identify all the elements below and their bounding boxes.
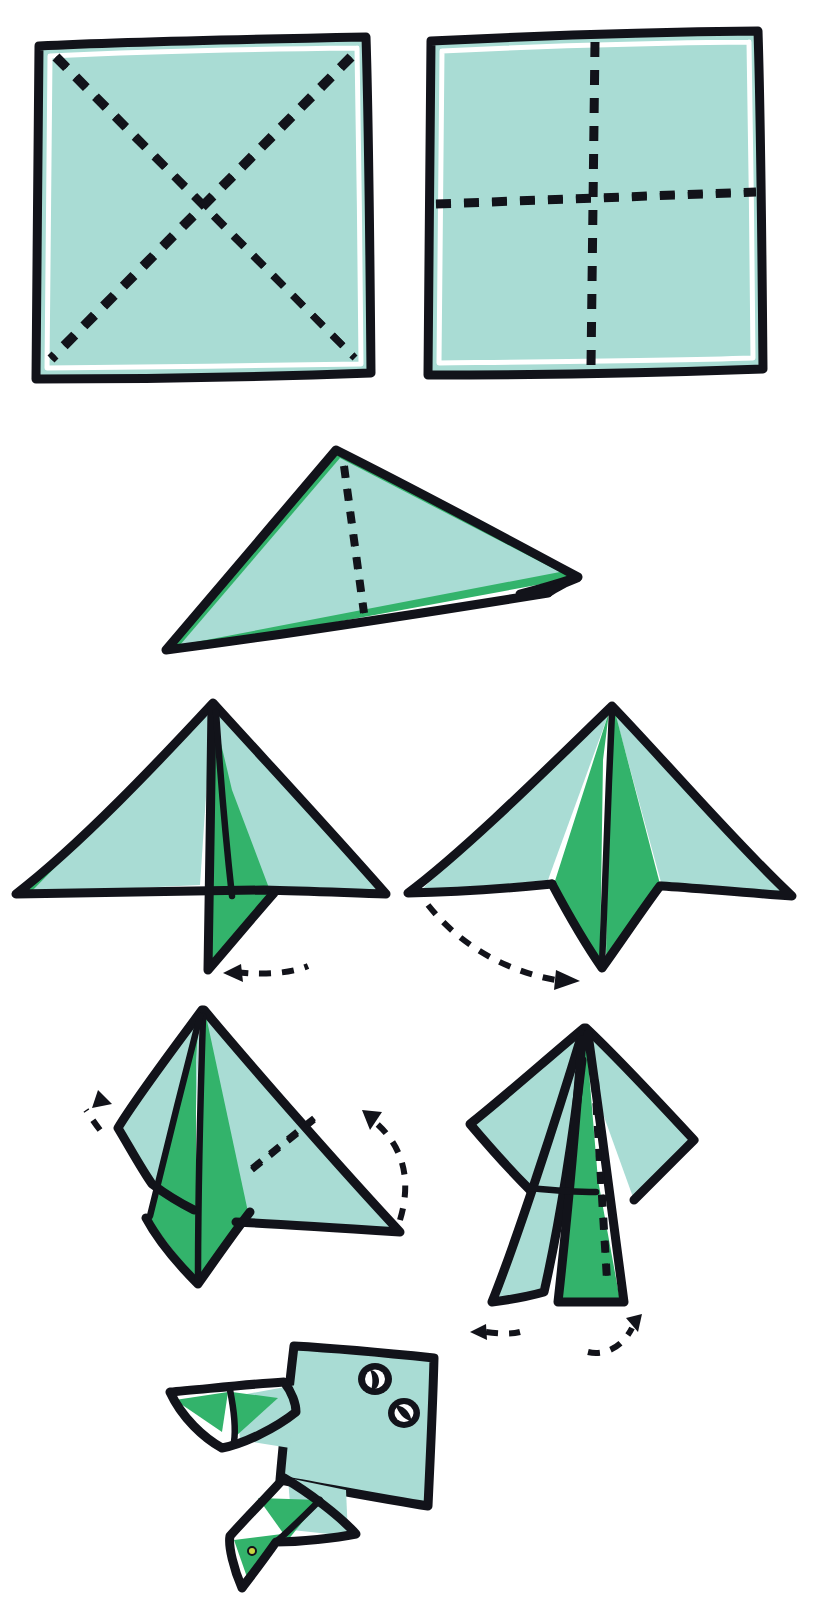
step-7-narrowed-legs-form (470, 1028, 694, 1353)
step-1-square-diagonal-creases (36, 37, 371, 379)
diagram-canvas: Origami jumping frog folding instruction… (0, 0, 824, 1597)
step7-fold-arrow-left (470, 1324, 520, 1340)
step6-fold-arrow-left (86, 1090, 112, 1130)
frog-eye-lower (388, 1398, 420, 1428)
frog-front-leg-fold (230, 1390, 235, 1442)
frog-foot-dot (248, 1547, 256, 1555)
step-3-flattened-triangle (166, 450, 578, 653)
step-8-finished-frog (170, 1346, 434, 1588)
step7-fold-arrow-right (588, 1314, 642, 1353)
step-6-side-points-folded-up (86, 1010, 405, 1284)
step4-fold-arrow (223, 964, 308, 982)
frog-eye-upper (358, 1363, 392, 1395)
origami-diagram-sheet: Origami jumping frog folding instruction… (0, 0, 824, 1597)
step-2-square-cross-creases (428, 31, 763, 375)
step-4-one-flap-folded-down (16, 703, 386, 982)
step5-fold-arrow (428, 905, 580, 990)
step-5-both-flaps-folded-down (408, 706, 792, 990)
